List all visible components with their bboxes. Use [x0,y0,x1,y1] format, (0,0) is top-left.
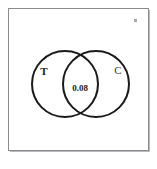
set-label-t: T [40,66,47,77]
venn-diagram-figure: T C 0.08 [0,0,157,169]
venn-circles [8,8,149,151]
stray-speck-mark [134,19,137,22]
intersection-value-label: 0.08 [72,84,88,93]
set-label-c: C [114,65,121,76]
